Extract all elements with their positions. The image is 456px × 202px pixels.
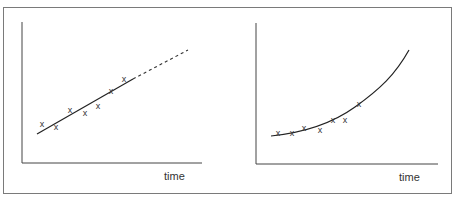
left-data-points: xxxxxxx — [40, 74, 127, 132]
data-point-marker: x — [290, 128, 295, 138]
data-point-marker: x — [357, 99, 362, 109]
right-chart: xxxxxxx — [256, 23, 438, 164]
data-point-marker: x — [68, 105, 73, 115]
data-point-marker: x — [318, 125, 323, 135]
left-chart: xxxxxxx — [22, 22, 202, 163]
data-point-marker: x — [331, 115, 336, 125]
data-point-marker: x — [343, 115, 348, 125]
charts-canvas: xxxxxxx xxxxxxx — [0, 0, 456, 202]
left-x-axis-label: time — [164, 170, 185, 182]
data-point-marker: x — [40, 119, 45, 129]
data-point-marker: x — [96, 101, 101, 111]
left-extrapolation-line — [133, 50, 188, 79]
data-point-marker: x — [302, 123, 307, 133]
data-point-marker: x — [109, 86, 114, 96]
right-data-points: xxxxxxx — [276, 99, 362, 138]
data-point-marker: x — [83, 108, 88, 118]
data-point-marker: x — [54, 122, 59, 132]
data-point-marker: x — [122, 74, 127, 84]
left-fit-line — [37, 79, 133, 134]
right-x-axis-label: time — [399, 171, 420, 183]
right-fit-curve — [271, 50, 409, 136]
data-point-marker: x — [276, 128, 281, 138]
